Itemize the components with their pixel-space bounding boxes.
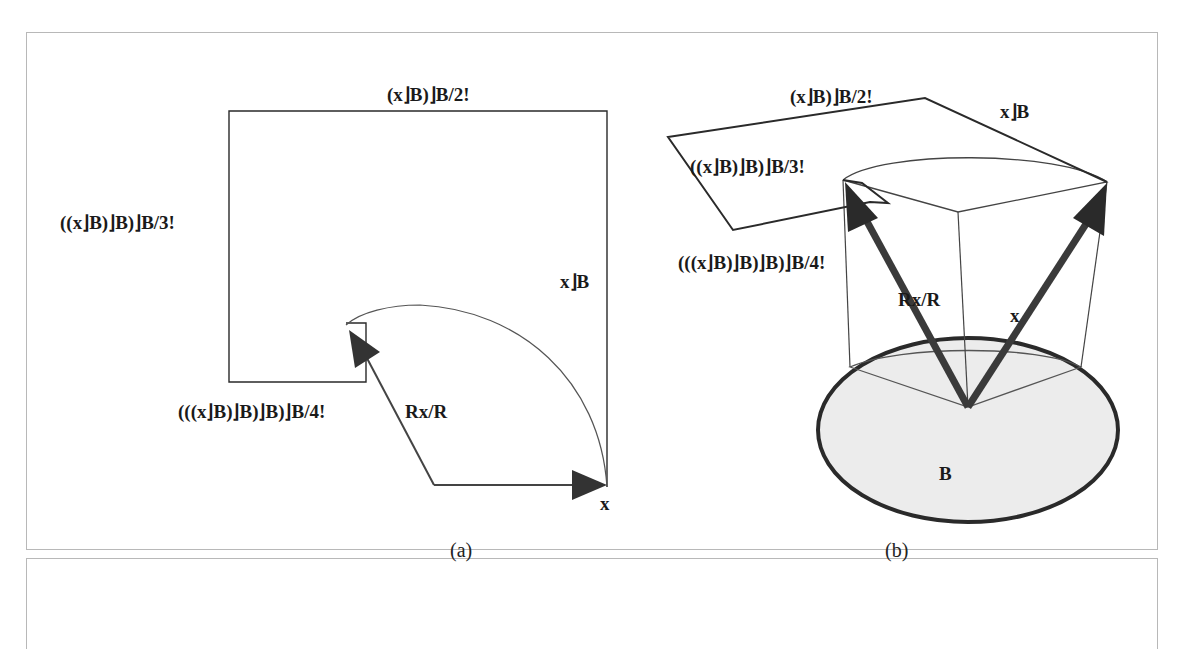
grade-path-a <box>229 111 607 487</box>
label-a-bottom-left: (((x⌋B)⌋B)⌋B)⌋B/4! <box>178 401 325 423</box>
arrowhead-rx-a <box>349 330 380 368</box>
arrowhead-x-b <box>1073 183 1107 236</box>
panel-b: (x⌋B)⌋B/2! x⌋B ((x⌋B)⌋B)⌋B/3! (((x⌋B)⌋B)… <box>668 86 1118 562</box>
plane-disk-b <box>818 338 1118 522</box>
label-a-rotated-vector: Rx/R <box>405 401 448 422</box>
label-a-top: (x⌋B)⌋B/2! <box>387 84 470 106</box>
panel-a: (x⌋B)⌋B/2! ((x⌋B)⌋B)⌋B/3! x⌋B (((x⌋B)⌋B)… <box>60 84 610 562</box>
label-b-rotated-vector: Rx/R <box>898 289 941 310</box>
label-b-bottom-left: (((x⌋B)⌋B)⌋B)⌋B/4! <box>678 252 825 274</box>
label-a-right: x⌋B <box>560 271 590 292</box>
label-b-top-right: x⌋B <box>1000 101 1030 122</box>
label-b-plane: B <box>939 463 952 484</box>
label-b-left: ((x⌋B)⌋B)⌋B/3! <box>690 156 805 178</box>
caption-b: (b) <box>885 539 908 562</box>
label-b-top: (x⌋B)⌋B/2! <box>790 86 873 108</box>
rotation-arc-a <box>346 305 607 487</box>
caption-a: (a) <box>450 539 472 562</box>
label-b-vector-x: x <box>1010 305 1020 326</box>
label-a-vector-x: x <box>600 493 610 514</box>
label-a-left: ((x⌋B)⌋B)⌋B/3! <box>60 212 175 234</box>
top-sector-b <box>843 158 1107 212</box>
arrowhead-rx-b <box>845 182 878 232</box>
